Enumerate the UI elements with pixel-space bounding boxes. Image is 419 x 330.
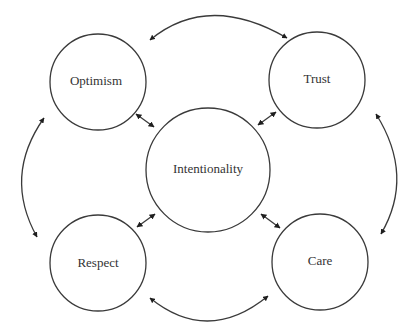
arrow-respect-care [150, 296, 268, 321]
node-respect: Respect [50, 215, 146, 311]
node-intentionality: Intentionality [146, 108, 270, 232]
arrow-optimism-respect [22, 118, 44, 237]
arrow-intentionality-care [261, 214, 280, 228]
respect-label: Respect [77, 255, 119, 270]
optimism-label: Optimism [70, 73, 122, 88]
trust-label: Trust [304, 71, 331, 86]
node-trust: Trust [269, 32, 365, 128]
arrow-trust-care [376, 114, 397, 234]
arrow-optimism-trust [150, 15, 287, 40]
intentionality-diagram: Optimism Trust Intentionality Respect Ca… [0, 0, 419, 330]
node-care: Care [272, 214, 368, 310]
arrow-intentionality-respect [137, 214, 155, 227]
node-optimism: Optimism [50, 34, 146, 130]
intentionality-label: Intentionality [173, 161, 244, 176]
care-label: Care [308, 253, 333, 268]
arrow-intentionality-optimism [136, 114, 154, 127]
arrow-intentionality-trust [258, 112, 276, 125]
